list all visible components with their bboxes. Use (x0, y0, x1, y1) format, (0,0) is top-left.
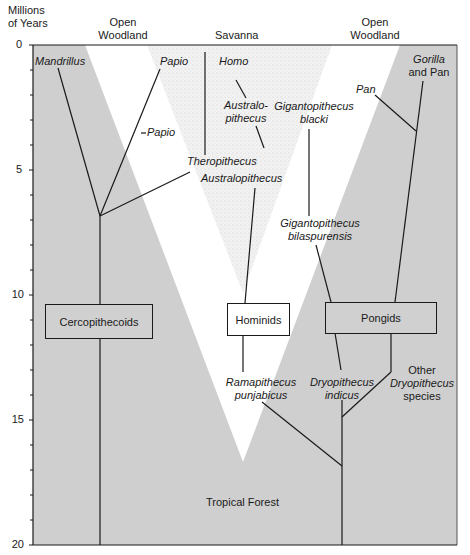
taxon-other-dryopithecus-species: Other Dryopithecus species (387, 364, 457, 403)
habitat-tropical-forest-label: Tropical Forest (206, 496, 279, 509)
taxon-dryopithecus-indicus-line1: Dryopithecus (307, 376, 377, 389)
hominids-box: Hominids (227, 303, 290, 336)
habitat-right-line2: Woodland (340, 29, 410, 42)
tick-label-15: 15 (2, 413, 24, 425)
habitat-left-label: Open Woodland (88, 16, 158, 42)
habitat-right-label: Open Woodland (340, 16, 410, 42)
tick-label-20: 20 (2, 538, 24, 550)
taxon-ramapithecus-line2: punjabicus (225, 389, 297, 402)
tick-label-5: 5 (0, 163, 22, 175)
taxon-theropithecus: Theropithecus (187, 155, 257, 168)
taxon-gorilla-and-pan: Gorilla and Pan (404, 53, 454, 79)
tick-label-10: 10 (2, 288, 24, 300)
habitat-savanna-label: Savanna (215, 29, 258, 42)
taxon-australopithecus-hyphenated: Australo- pithecus (211, 99, 281, 125)
taxon-gigantopithecus-bilaspurensis-line2: bilaspurensis (276, 230, 364, 243)
taxon-ramapithecus-line1: Ramapithecus (225, 376, 297, 389)
taxon-gigantopithecus-blacki-line1: Gigantopithecus (272, 100, 356, 113)
taxon-australopithecus: Australopithecus (201, 172, 282, 185)
taxon-gigantopithecus-bilaspurensis-line1: Gigantopithecus (276, 217, 364, 230)
tick-label-0: 0 (0, 38, 22, 50)
taxon-australopithecus-line2: pithecus (211, 112, 281, 125)
phylogeny-diagram (0, 0, 470, 555)
taxon-ramapithecus-punjabicus: Ramapithecus punjabicus (225, 376, 297, 402)
taxon-homo: Homo (219, 55, 248, 68)
habitat-left-line2: Woodland (88, 29, 158, 42)
y-axis-ticks (29, 45, 33, 545)
taxon-pan: Pan (356, 83, 376, 96)
taxon-australopithecus-line1: Australo- (211, 99, 281, 112)
savanna-region (147, 45, 332, 293)
taxon-gigantopithecus-bilaspurensis: Gigantopithecus bilaspurensis (276, 217, 364, 243)
taxon-species-line: species (387, 390, 457, 403)
habitat-right-line1: Open (340, 16, 410, 29)
pongids-box: Pongids (325, 302, 437, 334)
taxon-dryopithecus-indicus-line2: indicus (307, 389, 377, 402)
taxon-other-line: Other (387, 364, 457, 377)
axis-title-line2: of Years (8, 17, 48, 30)
taxon-mandrillus: Mandrillus (35, 55, 85, 68)
taxon-papio-top: Papio (160, 55, 188, 68)
taxon-dryopithecus-line: Dryopithecus (387, 377, 457, 390)
taxon-gigantopithecus-blacki-line2: blacki (272, 113, 356, 126)
taxon-gorilla-line: Gorilla (404, 53, 454, 66)
taxon-and-pan-line: and Pan (404, 66, 454, 79)
taxon-gigantopithecus-blacki: Gigantopithecus blacki (272, 100, 356, 126)
axis-title-line1: Millions (8, 4, 48, 17)
habitat-left-line1: Open (88, 16, 158, 29)
taxon-dryopithecus-indicus: Dryopithecus indicus (307, 376, 377, 402)
cercopithecoids-box: Cercopithecoids (45, 304, 153, 339)
axis-title: Millions of Years (8, 4, 48, 30)
taxon-papio-mid: Papio (147, 126, 175, 139)
